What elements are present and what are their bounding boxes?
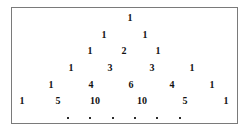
continuation-dot <box>67 117 69 119</box>
continuation-dot <box>134 117 136 119</box>
continuation-dot <box>112 117 114 119</box>
continuation-dot <box>89 117 91 119</box>
continuation-dot <box>156 117 158 119</box>
continuation-dot <box>179 117 181 119</box>
pascals-triangle-figure: 11112113311464115101051 <box>0 0 251 137</box>
continuation-dots-row <box>0 0 251 137</box>
